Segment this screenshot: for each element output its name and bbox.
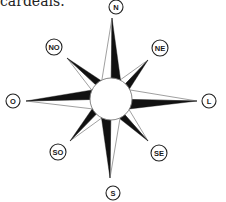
label-o: O xyxy=(6,94,20,108)
label-l: L xyxy=(202,94,216,108)
label-text: L xyxy=(207,97,212,106)
label-se: SE xyxy=(151,145,167,161)
label-text: O xyxy=(10,97,16,106)
label-no: NO xyxy=(46,39,62,55)
label-text: NE xyxy=(155,44,165,53)
label-text: S xyxy=(110,189,115,198)
compass-center-circle xyxy=(90,78,132,120)
label-ne: NE xyxy=(152,40,168,56)
compass-rose: NNELSESSOONO xyxy=(0,0,226,202)
label-text: SO xyxy=(53,148,64,157)
label-so: SO xyxy=(50,144,66,160)
label-text: SE xyxy=(154,149,164,158)
label-text: N xyxy=(113,3,118,12)
label-n: N xyxy=(109,0,123,14)
label-text: NO xyxy=(48,43,59,52)
label-s: S xyxy=(106,186,120,200)
